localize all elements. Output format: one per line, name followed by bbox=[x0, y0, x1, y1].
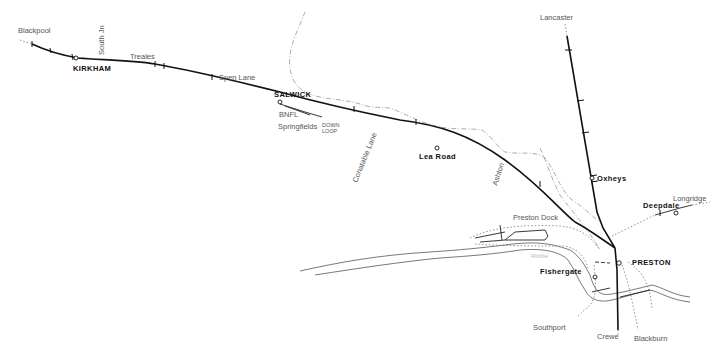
oxheys-station-marker bbox=[590, 176, 594, 180]
main-line-preston-crewe bbox=[615, 248, 618, 330]
lancaster-extension bbox=[565, 24, 567, 36]
label-fishergate: Fishergate bbox=[540, 267, 582, 276]
label-preston-dock: Preston Dock bbox=[513, 213, 558, 222]
label-treales: Treales bbox=[130, 52, 155, 61]
label-crewe: Crewe bbox=[597, 332, 619, 341]
label-conatable-lane: Conatable Lane bbox=[351, 131, 379, 183]
signals bbox=[32, 41, 660, 216]
label-ashton: Ashton bbox=[490, 162, 506, 187]
railway-map: Blackpool South Jn KIRKHAM Treales Spen … bbox=[0, 0, 718, 354]
dock-sidings bbox=[475, 225, 505, 242]
label-blackpool: Blackpool bbox=[18, 26, 51, 35]
blackburn-line bbox=[622, 265, 638, 330]
label-deepdale: Deepdale bbox=[643, 201, 680, 210]
label-river-ribble: Ribble bbox=[531, 253, 549, 259]
label-salwick: SALWICK bbox=[274, 90, 312, 99]
label-oxheys: Oxheys bbox=[597, 174, 627, 183]
boundary-line bbox=[290, 12, 600, 222]
dock-railway-dotted bbox=[470, 226, 600, 251]
river-bend-1 bbox=[585, 290, 690, 302]
river-crossing-east bbox=[620, 290, 650, 297]
main-line-lancaster-preston bbox=[567, 36, 615, 248]
label-springfields: Springfields bbox=[278, 122, 317, 131]
river-bend-2 bbox=[590, 275, 690, 297]
preston-station-marker bbox=[617, 261, 621, 265]
fishergate-station-marker bbox=[593, 275, 597, 279]
label-lancaster: Lancaster bbox=[540, 13, 573, 22]
fishergate-link bbox=[595, 262, 610, 263]
lea-road-station-marker bbox=[435, 146, 439, 150]
kirkham-station-marker bbox=[74, 56, 78, 60]
label-bnfl: BNFL bbox=[279, 110, 298, 119]
river-crossing-west bbox=[592, 288, 610, 292]
label-preston: PRESTON bbox=[632, 258, 671, 267]
salwick-station-marker bbox=[278, 100, 282, 104]
label-loop: LOOP bbox=[322, 128, 338, 134]
blackpool-extension bbox=[20, 40, 32, 44]
label-kirkham: KIRKHAM bbox=[73, 64, 111, 73]
preston-dock-basin bbox=[505, 230, 548, 240]
label-blackburn: Blackburn bbox=[634, 334, 667, 343]
label-spen-lane: Spen Lane bbox=[219, 73, 255, 82]
label-south-jn: South Jn bbox=[97, 25, 106, 55]
deepdale-disused-link bbox=[612, 215, 655, 236]
deepdale-station-marker bbox=[674, 211, 678, 215]
label-southport: Southport bbox=[533, 323, 566, 332]
label-lea-road: Lea Road bbox=[419, 152, 456, 161]
